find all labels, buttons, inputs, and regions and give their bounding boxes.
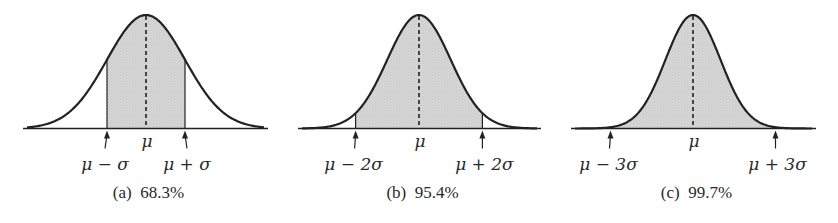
panel-a: μ μ − σ μ + σ (a) 68.3% bbox=[23, 15, 268, 202]
normal-distribution-figure: μ μ − σ μ + σ (a) 68.3% μ μ − 2σ μ + 2σ … bbox=[0, 0, 838, 223]
right-bound-label: μ + 3σ bbox=[748, 154, 807, 174]
caption: (b) 95.4% bbox=[386, 183, 458, 202]
right-bound-label: μ + σ bbox=[163, 154, 211, 174]
panel-c: μ μ − 3σ μ + 3σ (c) 99.7% bbox=[571, 15, 816, 202]
panel-b: μ μ − 2σ μ + 2σ (b) 95.4% bbox=[298, 15, 541, 202]
left-bound-label: μ − 3σ bbox=[579, 154, 638, 174]
right-arrow-icon bbox=[182, 131, 188, 149]
right-arrow-icon bbox=[479, 131, 485, 149]
mu-label: μ bbox=[141, 131, 152, 151]
right-bound-label: μ + 2σ bbox=[455, 154, 514, 174]
left-arrow-icon bbox=[104, 131, 110, 149]
figure-canvas: μ μ − σ μ + σ (a) 68.3% μ μ − 2σ μ + 2σ … bbox=[0, 0, 838, 223]
left-arrow-icon bbox=[353, 131, 359, 149]
left-bound-label: μ − 2σ bbox=[324, 154, 383, 174]
left-bound-label: μ − σ bbox=[81, 154, 129, 174]
caption: (c) 99.7% bbox=[661, 183, 732, 202]
left-arrow-icon bbox=[608, 131, 614, 149]
caption: (a) 68.3% bbox=[113, 183, 184, 202]
mu-label: μ bbox=[688, 131, 699, 151]
mu-label: μ bbox=[414, 131, 425, 151]
right-arrow-icon bbox=[773, 131, 779, 149]
